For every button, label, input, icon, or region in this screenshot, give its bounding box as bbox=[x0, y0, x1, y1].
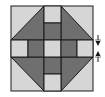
quilt-block-diagram bbox=[0, 0, 105, 97]
band-left-light bbox=[11, 40, 28, 57]
bottom-center-dark bbox=[44, 57, 61, 74]
up-arrow-icon bbox=[95, 51, 101, 62]
top-center-light bbox=[44, 6, 61, 23]
band-center-light bbox=[44, 40, 61, 57]
band-left-dark bbox=[28, 40, 44, 57]
bottom-center-light bbox=[44, 74, 61, 91]
top-center-dark bbox=[44, 23, 61, 40]
down-arrow-icon bbox=[95, 35, 101, 46]
band-right-light bbox=[77, 40, 93, 57]
band-right-dark bbox=[61, 40, 77, 57]
